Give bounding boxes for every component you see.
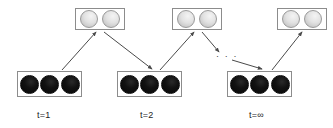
time-label-tinf: t=∞ xyxy=(249,110,264,120)
edge-visible1-to-hidden1 xyxy=(62,32,96,70)
visible-layer-t1[interactable] xyxy=(17,71,82,97)
edge-visible-inf-to-hidden-inf xyxy=(272,32,302,70)
dark-unit xyxy=(20,75,39,94)
dark-unit xyxy=(161,75,180,94)
light-unit xyxy=(102,10,120,28)
hidden-layer-t1[interactable] xyxy=(75,8,125,30)
diagram-canvas: · · · t=1t=2t=∞ xyxy=(0,0,333,128)
light-unit xyxy=(199,10,217,28)
dark-unit xyxy=(230,75,249,94)
edge-visible2-to-hidden2 xyxy=(160,32,194,70)
dark-unit xyxy=(271,75,290,94)
light-unit xyxy=(282,10,300,28)
dark-unit xyxy=(250,75,269,94)
hidden-layer-tinf[interactable] xyxy=(277,8,327,30)
ellipsis-gap: · · · xyxy=(216,51,238,61)
light-unit xyxy=(177,10,195,28)
visible-layer-tinf[interactable] xyxy=(227,71,292,97)
light-unit xyxy=(80,10,98,28)
dark-unit xyxy=(40,75,59,94)
time-label-t2: t=2 xyxy=(140,110,153,120)
edge-hidden1-to-visible2 xyxy=(104,32,152,69)
dark-unit xyxy=(120,75,139,94)
visible-layer-t2[interactable] xyxy=(117,71,182,97)
dark-unit xyxy=(140,75,159,94)
time-label-t1: t=1 xyxy=(37,110,50,120)
dark-unit xyxy=(61,75,80,94)
light-unit xyxy=(304,10,322,28)
edge-gap-to-visible-inf xyxy=(232,60,262,69)
edges-group xyxy=(62,32,302,70)
hidden-layer-t2[interactable] xyxy=(172,8,222,30)
edge-hidden2-to-gap xyxy=(202,32,219,52)
